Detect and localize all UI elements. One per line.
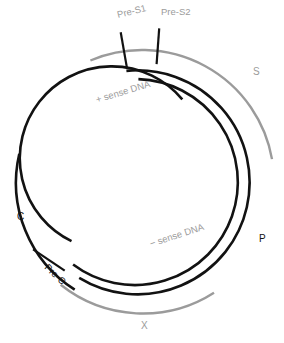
pre-s2-start-tick xyxy=(157,28,160,64)
hbv-genome-diagram: Pre-S1 Pre-S2 S P X C Pre-C + sense DNA … xyxy=(0,0,284,343)
minus-sense-dna-outer-arc xyxy=(79,70,249,294)
label-pre-s2: Pre-S2 xyxy=(161,6,191,17)
label-x: X xyxy=(141,320,148,331)
label-plus-sense-dna: + sense DNA xyxy=(94,78,152,105)
label-p: P xyxy=(259,233,266,244)
label-s: S xyxy=(253,66,260,77)
x-orf-arc xyxy=(61,285,214,314)
minus-sense-dna-inner-arc xyxy=(73,79,238,285)
label-minus-sense-dna: − sense DNA xyxy=(148,221,206,249)
genome-map-svg: Pre-S1 Pre-S2 S P X C Pre-C + sense DNA … xyxy=(0,0,284,343)
label-pre-s1: Pre-S1 xyxy=(116,2,147,20)
label-c: C xyxy=(17,211,24,222)
